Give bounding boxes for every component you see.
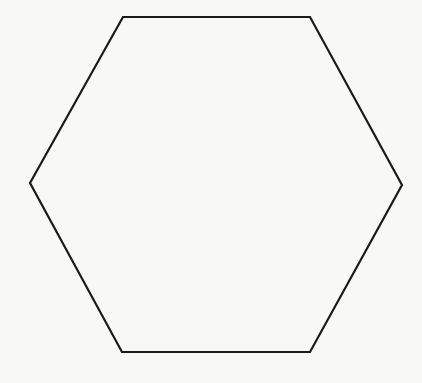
hexagon-figure [0,0,422,383]
hexagon-outline [30,17,402,352]
diagram-canvas [0,0,422,383]
